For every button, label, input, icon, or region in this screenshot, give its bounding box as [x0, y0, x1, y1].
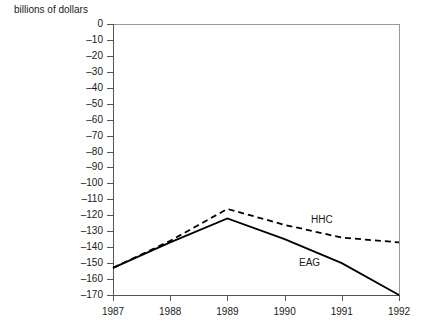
series-line-eag [113, 218, 399, 295]
y-tick-label: –170 [57, 290, 103, 300]
series-label-eag: EAG [299, 258, 320, 268]
y-tick-label: –160 [57, 274, 103, 284]
y-tick-label: –100 [57, 178, 103, 188]
series-line-hhc [113, 209, 399, 268]
x-tick-label: 1988 [144, 307, 196, 317]
y-tick-label: –130 [57, 226, 103, 236]
y-tick-label: –60 [57, 115, 103, 125]
x-tick-label: 1991 [316, 307, 368, 317]
y-tick-label: –40 [57, 83, 103, 93]
y-tick-label: –140 [57, 242, 103, 252]
x-tick-label: 1989 [201, 307, 253, 317]
y-tick-label: –70 [57, 131, 103, 141]
y-tick-label: –90 [57, 162, 103, 172]
y-tick-label: –120 [57, 210, 103, 220]
y-tick-label: 0 [57, 19, 103, 29]
x-tick-label: 1992 [373, 307, 422, 317]
y-tick-label: –150 [57, 258, 103, 268]
series-label-hhc: HHC [311, 215, 333, 225]
y-tick-label: –10 [57, 35, 103, 45]
y-axis-ticks [107, 25, 113, 296]
y-tick-label: –80 [57, 147, 103, 157]
chart-container: billions of dollars 0–10–20–30–40–50–60–… [0, 0, 422, 330]
y-tick-label: –110 [57, 194, 103, 204]
y-tick-label: –30 [57, 67, 103, 77]
series-lines [113, 209, 399, 295]
y-tick-label: –50 [57, 99, 103, 109]
x-axis-ticks [114, 295, 400, 301]
x-tick-label: 1987 [87, 307, 139, 317]
plot-frame [113, 24, 399, 295]
y-tick-label: –20 [57, 51, 103, 61]
x-tick-label: 1990 [259, 307, 311, 317]
